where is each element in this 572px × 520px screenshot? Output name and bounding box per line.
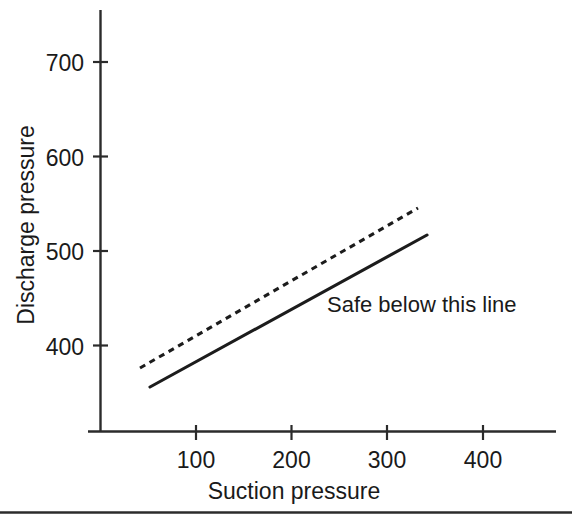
- x-tick-label-300: 300: [368, 447, 406, 473]
- chart-background: [0, 0, 572, 520]
- y-tick-label-400: 400: [46, 334, 84, 360]
- line-chart: 700 600 500 400 100 200 300 400 Discharg…: [0, 0, 572, 520]
- y-axis-title: Discharge pressure: [13, 125, 39, 324]
- y-tick-label-700: 700: [46, 50, 84, 76]
- x-tick-label-400: 400: [464, 447, 502, 473]
- x-axis-title: Suction pressure: [208, 478, 381, 504]
- annotation-safe-below-this-line: Safe below this line: [327, 292, 517, 317]
- figure-container: 700 600 500 400 100 200 300 400 Discharg…: [0, 0, 572, 520]
- x-tick-label-100: 100: [177, 447, 215, 473]
- y-tick-label-500: 500: [46, 239, 84, 265]
- y-tick-label-600: 600: [46, 145, 84, 171]
- x-tick-label-200: 200: [272, 447, 310, 473]
